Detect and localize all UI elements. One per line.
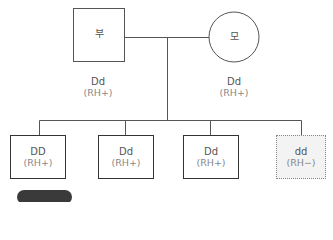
father-genotype: Dd bbox=[72, 76, 124, 87]
child-box-4: dd (RH−) bbox=[276, 135, 326, 179]
mother-genotype: Dd bbox=[208, 76, 260, 87]
father-symbol-label: 부 bbox=[73, 28, 125, 39]
mother-phenotype: (RH+) bbox=[208, 87, 260, 98]
child-box-2: Dd (RH+) bbox=[98, 135, 154, 179]
child-genotype: Dd bbox=[119, 146, 133, 157]
child-genotype: Dd bbox=[204, 146, 218, 157]
child-phenotype: (RH+) bbox=[111, 157, 140, 168]
child-phenotype: (RH−) bbox=[286, 157, 315, 168]
child-phenotype: (RH+) bbox=[196, 157, 225, 168]
child-phenotype: (RH+) bbox=[23, 157, 52, 168]
child-box-1: DD (RH+) bbox=[10, 135, 66, 179]
father-phenotype: (RH+) bbox=[72, 87, 124, 98]
child-genotype: DD bbox=[30, 146, 45, 157]
child-box-3: Dd (RH+) bbox=[183, 135, 239, 179]
father-genotype-label: Dd (RH+) bbox=[72, 76, 124, 98]
child-genotype: dd bbox=[295, 146, 308, 157]
caption-badge bbox=[17, 190, 72, 202]
mother-symbol-label: 모 bbox=[209, 31, 259, 42]
mother-genotype-label: Dd (RH+) bbox=[208, 76, 260, 98]
